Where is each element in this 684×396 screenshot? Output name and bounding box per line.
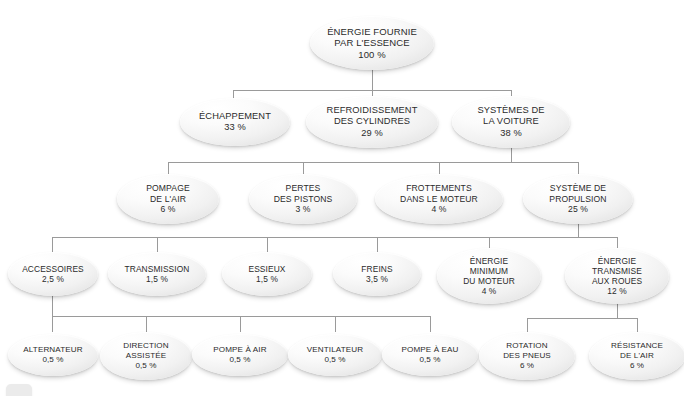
node-pertes-pistons[interactable]: PERTES DES PISTONS 3 % <box>249 174 357 224</box>
node-label-line: ROTATION <box>506 341 547 351</box>
node-value: 0,5 % <box>229 355 250 365</box>
node-label-line: DANS LE MOTEUR <box>400 194 478 204</box>
node-label-line: FREINS <box>361 264 392 274</box>
node-label-line: ÉNERGIE <box>598 256 636 266</box>
node-label-line: PROPULSION <box>549 194 606 204</box>
node-rotation-pneus[interactable]: ROTATION DES PNEUS 6 % <box>479 332 575 380</box>
node-label-line: ALTERNATEUR <box>23 345 82 355</box>
node-label-line: POMPE À AIR <box>213 345 266 355</box>
node-label-line: DES CYLINDRES <box>334 116 410 127</box>
node-value: 25 % <box>568 204 588 214</box>
node-value: 6 % <box>520 361 534 371</box>
node-label-line: SYSTÈME DE <box>550 183 606 193</box>
node-value: 33 % <box>224 122 246 133</box>
node-pompe-a-air[interactable]: POMPE À AIR 0,5 % <box>192 334 288 376</box>
node-label-line: ESSIEUX <box>248 264 285 274</box>
node-energie-fournie[interactable]: ÉNERGIE FOURNIE PAR L'ESSENCE 100 % <box>310 16 434 70</box>
node-alternateur[interactable]: ALTERNATEUR 0,5 % <box>8 334 98 376</box>
node-echappement[interactable]: ÉCHAPPEMENT 33 % <box>180 98 290 146</box>
node-energie-minimum-moteur[interactable]: ÉNERGIE MINIMUM DU MOTEUR 4 % <box>437 248 541 304</box>
node-label-line: DIRECTION <box>123 341 168 351</box>
node-label-line: ÉNERGIE <box>470 256 508 266</box>
node-value: 4 % <box>431 204 446 214</box>
node-value: 100 % <box>358 49 385 61</box>
node-direction-assistee[interactable]: DIRECTION ASSISTÉE 0,5 % <box>100 332 192 380</box>
node-label-line: ACCESSOIRES <box>22 264 84 274</box>
node-label-line: SYSTÈMES DE <box>477 105 544 116</box>
node-value: 1,5 % <box>146 274 168 284</box>
node-value: 6 % <box>160 204 175 214</box>
node-label-line: PAR L'ESSENCE <box>334 37 409 49</box>
node-label-line: ÉCHAPPEMENT <box>199 111 271 122</box>
node-label-line: ASSISTÉE <box>126 351 166 361</box>
node-label-line: RÉSISTANCE <box>611 341 663 351</box>
node-label-line: MINIMUM <box>470 266 508 276</box>
node-frottements-moteur[interactable]: FROTTEMENTS DANS LE MOTEUR 4 % <box>375 174 503 224</box>
node-value: 2,5 % <box>42 274 64 284</box>
energy-flow-diagram: ÉNERGIE FOURNIE PAR L'ESSENCE 100 % ÉCHA… <box>0 0 684 396</box>
node-label-line: TRANSMISE <box>592 266 642 276</box>
node-freins[interactable]: FREINS 3,5 % <box>333 252 421 296</box>
node-value: 0,5 % <box>135 361 156 371</box>
node-energie-transmise-roues[interactable]: ÉNERGIE TRANSMISE AUX ROUES 12 % <box>565 248 669 304</box>
node-essieux[interactable]: ESSIEUX 1,5 % <box>222 252 312 296</box>
node-pompe-a-eau[interactable]: POMPE À EAU 0,5 % <box>382 334 478 376</box>
node-pompage-air[interactable]: POMPAGE DE L'AIR 6 % <box>117 174 219 224</box>
node-value: 4 % <box>482 286 497 296</box>
node-label-line: DES PISTONS <box>274 194 333 204</box>
node-label-line: DU MOTEUR <box>463 276 515 286</box>
node-label-line: ÉNERGIE FOURNIE <box>327 26 417 38</box>
node-value: 3 % <box>295 204 310 214</box>
node-label-line: LA VOITURE <box>483 116 539 127</box>
node-label-line: DE L'AIR <box>620 351 654 361</box>
node-systemes-voiture[interactable]: SYSTÈMES DE LA VOITURE 38 % <box>452 96 570 148</box>
node-label-line: PERTES <box>286 183 321 193</box>
node-label-line: AUX ROUES <box>592 276 642 286</box>
node-label-line: POMPAGE <box>146 183 190 193</box>
node-value: 0,5 % <box>419 355 440 365</box>
node-label-line: FROTTEMENTS <box>406 183 472 193</box>
node-accessoires[interactable]: ACCESSOIRES 2,5 % <box>8 252 98 296</box>
node-value: 0,5 % <box>42 355 63 365</box>
node-refroidissement-cylindres[interactable]: REFROIDISSEMENT DES CYLINDRES 29 % <box>306 96 438 148</box>
node-transmission[interactable]: TRANSMISSION 1,5 % <box>108 252 206 296</box>
node-value: 1,5 % <box>256 274 278 284</box>
node-value: 6 % <box>630 361 644 371</box>
node-resistance-air[interactable]: RÉSISTANCE DE L'AIR 6 % <box>589 332 684 380</box>
node-label-line: REFROIDISSEMENT <box>327 105 418 116</box>
node-label-line: DES PNEUS <box>503 351 551 361</box>
node-value: 3,5 % <box>366 274 388 284</box>
node-value: 29 % <box>361 128 383 139</box>
node-label-line: DE L'AIR <box>150 194 186 204</box>
node-systeme-propulsion[interactable]: SYSTÈME DE PROPULSION 25 % <box>523 174 633 224</box>
node-ventilateur[interactable]: VENTILATEUR 0,5 % <box>288 334 382 376</box>
node-label-line: VENTILATEUR <box>307 345 363 355</box>
node-label-line: TRANSMISSION <box>125 264 190 274</box>
node-value: 12 % <box>607 286 627 296</box>
node-value: 0,5 % <box>324 355 345 365</box>
node-value: 38 % <box>500 128 522 139</box>
page-corner-widget[interactable] <box>6 384 32 396</box>
node-label-line: POMPE À EAU <box>402 345 459 355</box>
